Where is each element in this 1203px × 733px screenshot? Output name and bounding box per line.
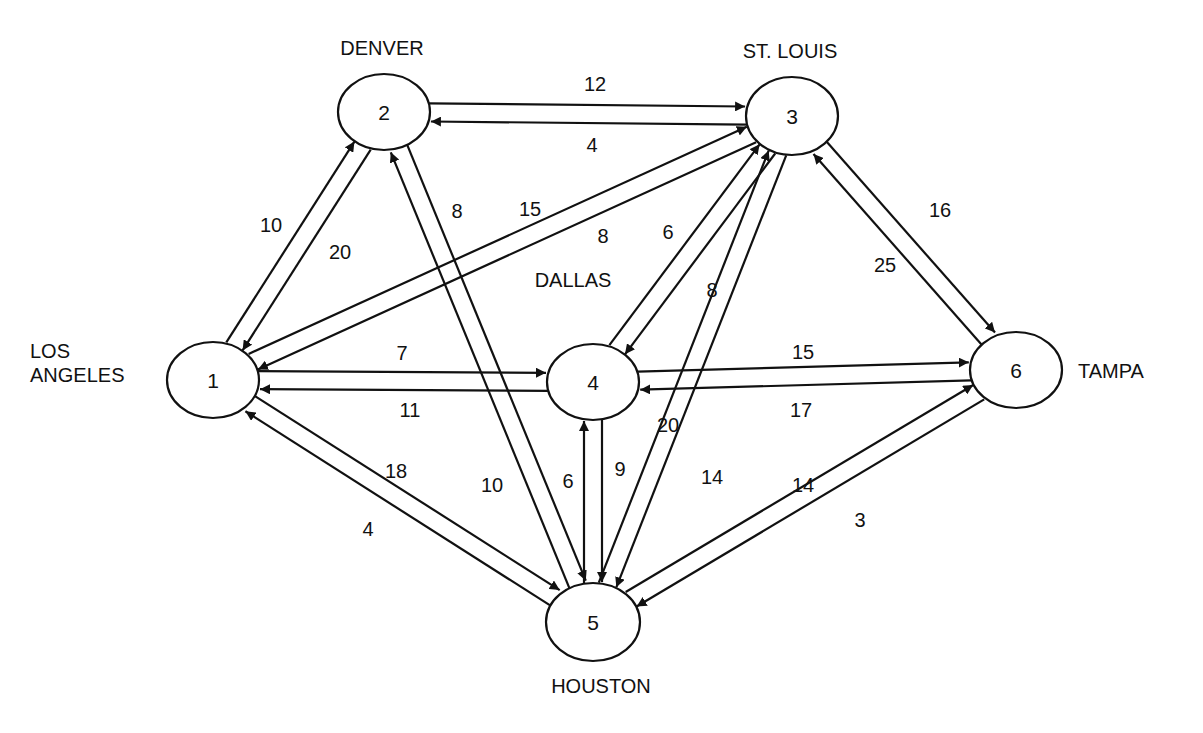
edge-weight-6-to-5: 3 (854, 509, 865, 531)
edge-weight-2-to-1: 20 (329, 241, 351, 263)
edge-1-to-5 (253, 395, 559, 590)
edge-weight-3-to-4: 8 (706, 279, 717, 301)
edge-6-to-5 (637, 399, 985, 606)
edge-weight-5-to-6: 14 (792, 474, 814, 496)
node-4: 4DALLAS (535, 269, 639, 420)
edge-weight-6-to-4: 17 (790, 399, 812, 421)
city-label: HOUSTON (551, 675, 651, 697)
node-3: 3ST. LOUIS (743, 40, 838, 155)
edge-weight-1-to-4: 7 (396, 342, 407, 364)
node-number: 1 (207, 369, 219, 392)
edge-weight-4-to-6: 15 (792, 341, 814, 363)
edge-4-to-6 (638, 362, 969, 371)
node-number: 2 (378, 101, 390, 124)
edge-3-to-6 (826, 141, 995, 333)
edge-weight-5-to-4: 6 (562, 470, 573, 492)
city-label: DENVER (340, 37, 423, 59)
edge-weight-5-to-2: 10 (481, 474, 503, 496)
node-number: 5 (587, 611, 599, 634)
edge-2-to-3 (429, 103, 745, 106)
edge-5-to-1 (245, 411, 551, 606)
node-2: 2DENVER (338, 37, 430, 150)
edge-weight-3-to-5: 20 (657, 414, 679, 436)
network-diagram: 1LOSANGELES2DENVER3ST. LOUIS4DALLAS5HOUS… (0, 0, 1203, 733)
edge-1-to-4 (258, 371, 546, 373)
edge-weight-1-to-5: 18 (385, 460, 407, 482)
node-number: 3 (786, 105, 798, 128)
edge-6-to-3 (814, 154, 983, 346)
edge-2-to-1 (243, 150, 371, 351)
edge-weight-3-to-1: 8 (597, 225, 608, 247)
edge-5-to-2 (391, 152, 570, 589)
city-label: ST. LOUIS (743, 40, 837, 62)
city-label: DALLAS (535, 269, 612, 291)
edge-weight-4-to-5: 9 (614, 458, 625, 480)
edge-weight-4-to-1: 11 (400, 399, 421, 421)
edge-weight-1-to-3: 15 (519, 198, 541, 220)
node-1: 1LOSANGELES (30, 340, 259, 418)
edge-3-to-2 (431, 122, 747, 125)
city-label: LOSANGELES (30, 340, 124, 386)
edge-4-to-1 (260, 389, 548, 391)
edge-weight-3-to-2: 4 (586, 134, 597, 156)
edge-weight-5-to-3: 14 (701, 466, 723, 488)
edge-weight-1-to-2: 10 (260, 214, 282, 236)
node-number: 6 (1010, 359, 1022, 382)
node-6: 6TAMPA (970, 332, 1145, 408)
edge-weight-6-to-3: 25 (874, 254, 896, 276)
node-5: 5HOUSTON (546, 583, 651, 697)
edge-weight-2-to-3: 12 (584, 73, 606, 95)
edge-6-to-4 (640, 380, 971, 389)
edge-weight-5-to-1: 4 (362, 518, 373, 540)
node-number: 4 (587, 371, 599, 394)
edge-weight-4-to-3: 6 (662, 221, 673, 243)
edge-weight-2-to-5: 8 (451, 200, 462, 222)
edge-weight-3-to-6: 16 (929, 199, 951, 221)
city-label: TAMPA (1078, 360, 1145, 382)
